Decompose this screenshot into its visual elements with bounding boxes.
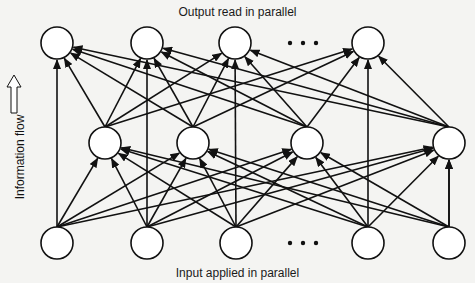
hidden-node xyxy=(177,127,209,159)
ellipsis-dot xyxy=(314,41,318,45)
input-label: Input applied in parallel xyxy=(0,266,475,280)
information-flow-label: Information flow xyxy=(13,97,27,217)
input-node xyxy=(352,227,384,259)
connection-edge xyxy=(57,158,98,227)
connection-edge xyxy=(307,58,359,127)
output-node xyxy=(131,27,163,59)
network-diagram xyxy=(0,0,475,283)
ellipsis-dot xyxy=(301,241,305,245)
input-node xyxy=(220,227,252,259)
connection-edge xyxy=(112,159,147,227)
hidden-node xyxy=(433,127,465,159)
ellipsis-dot xyxy=(314,241,318,245)
output-node xyxy=(352,27,384,59)
ellipsis-dot xyxy=(288,41,292,45)
hidden-node xyxy=(291,127,323,159)
ellipsis-dot xyxy=(288,241,292,245)
neuron-nodes xyxy=(41,27,465,259)
connection-edge xyxy=(379,56,449,127)
connection-edge xyxy=(73,47,449,127)
connection-edge xyxy=(57,147,433,227)
connection-edge xyxy=(64,58,105,127)
connection-edge xyxy=(71,53,193,127)
connection-edge xyxy=(105,53,222,127)
input-node xyxy=(131,227,163,259)
ellipsis-dot xyxy=(301,41,305,45)
input-node xyxy=(41,227,73,259)
connection-edge xyxy=(147,148,433,227)
output-label: Output read in parallel xyxy=(0,5,475,19)
connection-edge xyxy=(163,48,449,127)
connection-edge xyxy=(235,60,236,227)
connection-edge xyxy=(57,153,179,227)
input-node xyxy=(433,227,465,259)
output-node xyxy=(219,27,251,59)
connection-edge xyxy=(250,50,449,127)
output-node xyxy=(41,27,73,59)
hidden-node xyxy=(89,127,121,159)
